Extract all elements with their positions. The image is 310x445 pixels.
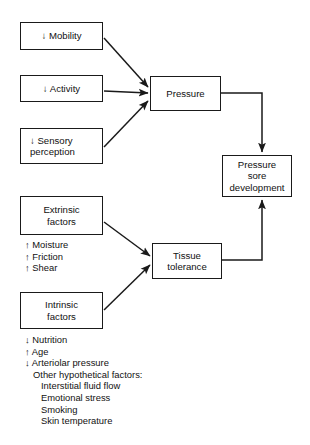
edge-extrinsic-to-tissue-tolerance (104, 222, 150, 256)
intrinsic-factor-item: Emotional stress (25, 392, 142, 404)
node-extrinsic-factors-line-2: factors (47, 216, 76, 228)
node-extrinsic-factors[interactable]: Extrinsic factors (20, 196, 103, 235)
node-pressure-sore-development[interactable]: Pressure sore development (222, 155, 292, 197)
node-pressure-sore-line-1: Pressure (238, 159, 276, 171)
intrinsic-factor-item: ↑ Age (25, 346, 142, 358)
extrinsic-factors-list: ↑ Moisture↑ Friction↑ Shear (25, 239, 68, 274)
node-tissue-tolerance-line-1: Tissue (173, 250, 201, 262)
extrinsic-factor-item: ↑ Shear (25, 262, 68, 274)
node-intrinsic-factors-line-1: Intrinsic (45, 299, 78, 311)
intrinsic-factor-item: ↓ Arteriolar pressure (25, 357, 142, 369)
node-pressure-line: Pressure (166, 88, 204, 100)
node-pressure[interactable]: Pressure (150, 76, 221, 111)
node-activity[interactable]: ↓ Activity (20, 75, 103, 102)
node-intrinsic-factors-line-2: factors (47, 311, 76, 323)
node-intrinsic-factors[interactable]: Intrinsic factors (20, 292, 103, 329)
extrinsic-factor-item: ↑ Moisture (25, 239, 68, 251)
node-extrinsic-factors-line-1: Extrinsic (43, 204, 79, 216)
intrinsic-factor-item: Interstitial fluid flow (25, 380, 142, 392)
node-activity-line: ↓ Activity (43, 83, 80, 95)
node-mobility-line: ↓ Mobility (42, 30, 82, 42)
intrinsic-factor-item: Smoking (25, 404, 142, 416)
node-tissue-tolerance-line-2: tolerance (167, 261, 206, 273)
node-mobility[interactable]: ↓ Mobility (20, 22, 103, 50)
node-sensory-perception[interactable]: ↓ Sensory perception (20, 128, 103, 164)
node-sensory-perception-line-2: perception (30, 146, 75, 158)
node-pressure-sore-line-3: development (230, 182, 285, 194)
edge-pressure-to-pressure-sore (221, 93, 262, 152)
intrinsic-factor-item: Other hypothetical factors: (25, 369, 142, 381)
extrinsic-factor-item: ↑ Friction (25, 251, 68, 263)
node-sensory-perception-line-1: ↓ Sensory (30, 135, 73, 147)
edge-tissue-tolerance-to-pressure-sore (222, 200, 262, 260)
flowchart-diagram: ↓ Mobility ↓ Activity ↓ Sensory percepti… (0, 0, 310, 445)
node-tissue-tolerance[interactable]: Tissue tolerance (152, 243, 222, 279)
edge-mobility-to-pressure (104, 38, 148, 87)
intrinsic-factor-item: ↓ Nutrition (25, 334, 142, 346)
edge-sensory-to-pressure (104, 101, 148, 147)
intrinsic-factor-item: Skin temperature (25, 415, 142, 427)
edge-activity-to-pressure (104, 91, 148, 93)
node-pressure-sore-line-2: sore (248, 170, 267, 182)
edge-intrinsic-to-tissue-tolerance (104, 265, 150, 310)
intrinsic-factors-list: ↓ Nutrition↑ Age↓ Arteriolar pressureOth… (25, 334, 142, 427)
